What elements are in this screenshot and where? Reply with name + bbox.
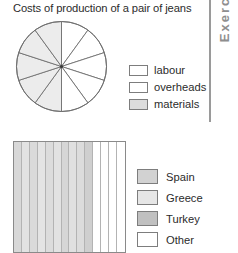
legend-swatch-turkey	[137, 211, 158, 226]
pie-chart	[15, 18, 108, 115]
bar-segment	[117, 142, 125, 252]
sidebar-label-text: Exercise	[218, 0, 233, 42]
legend-item-greece: Greece	[137, 187, 217, 208]
legend-swatch-greece	[137, 190, 158, 205]
legend-swatch-labour	[129, 65, 148, 76]
stacked-bar-chart	[13, 141, 126, 253]
exercise-sidebar-tab: Exercise	[205, 0, 238, 130]
legend-label-other: Other	[166, 234, 194, 246]
bar-segment	[38, 142, 46, 252]
legend-item-turkey: Turkey	[137, 208, 217, 229]
legend-label-overheads: overheads	[154, 81, 206, 93]
bar-segment	[14, 142, 22, 252]
bar-segment	[62, 142, 70, 252]
legend-label-materials: materials	[154, 98, 199, 110]
clipped-edge-text: s	[0, 26, 10, 41]
bar-chart-legend: Spain Greece Turkey Other	[137, 166, 217, 250]
legend-item-spain: Spain	[137, 166, 217, 187]
pie-chart-legend: labour overheads materials	[129, 62, 203, 113]
pie-chart-title: Costs of production of a pair of jeans	[13, 2, 203, 15]
legend-item-other: Other	[137, 229, 217, 250]
bar-segment	[30, 142, 38, 252]
pie-chart-svg	[15, 18, 108, 115]
sidebar-divider	[209, 0, 211, 122]
legend-item-labour: labour	[129, 62, 203, 78]
bar-segment	[22, 142, 30, 252]
bar-segment	[93, 142, 101, 252]
bar-segment	[101, 142, 109, 252]
legend-swatch-other	[137, 232, 158, 247]
pie-center-dot	[60, 65, 63, 68]
legend-swatch-overheads	[129, 82, 148, 93]
bar-segment	[109, 142, 117, 252]
legend-swatch-materials	[129, 99, 148, 110]
legend-item-materials: materials	[129, 96, 203, 112]
sidebar-label-wrap: Exercise	[214, 0, 236, 122]
legend-swatch-spain	[137, 169, 158, 184]
legend-label-turkey: Turkey	[166, 213, 200, 225]
bar-segment	[77, 142, 85, 252]
legend-label-labour: labour	[154, 64, 185, 76]
bar-segment	[69, 142, 77, 252]
bar-segment	[46, 142, 54, 252]
legend-label-greece: Greece	[166, 192, 203, 204]
bar-segment	[85, 142, 93, 252]
legend-label-spain: Spain	[166, 171, 195, 183]
legend-item-overheads: overheads	[129, 79, 203, 95]
bar-segment	[54, 142, 62, 252]
